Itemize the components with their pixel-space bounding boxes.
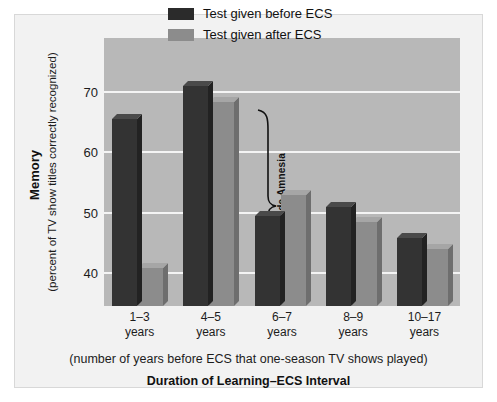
y-tick-label: 70 — [84, 85, 98, 100]
x-tick-label-line: 1–3 — [125, 310, 154, 325]
bar — [326, 207, 351, 306]
y-axis-subtitle-text: (percent of TV show titles correctly rec… — [46, 52, 58, 291]
bar-side — [137, 114, 142, 306]
bar-face — [397, 238, 422, 306]
x-axis-title: Duration of Learning–ECS Interval — [0, 374, 497, 388]
y-axis-tick-labels: 40506070 — [62, 38, 98, 306]
bar — [209, 102, 234, 306]
x-tick-label-line: 8–9 — [339, 310, 368, 325]
bar-side — [234, 97, 239, 306]
bar — [183, 86, 208, 306]
x-tick-label: 6–7years — [267, 310, 296, 340]
bar-face — [183, 86, 208, 306]
bar-side — [448, 244, 453, 306]
x-axis-subtitle: (number of years before ECS that one-sea… — [0, 352, 497, 366]
bar-side — [306, 190, 311, 306]
x-tick-label: 10–17years — [408, 310, 441, 340]
plot-area: Retrograde Amnesia — [104, 38, 460, 306]
y-axis-title-text: Memory — [27, 150, 42, 200]
gridline — [104, 151, 460, 153]
legend-label: Test given before ECS — [203, 6, 332, 21]
bar — [112, 119, 137, 306]
legend-swatch-icon — [168, 29, 194, 41]
bar-face — [326, 207, 351, 306]
legend-label: Test given after ECS — [203, 27, 322, 42]
y-axis-title: Memory — [24, 70, 44, 280]
figure: Memory (percent of TV show titles correc… — [0, 0, 497, 402]
x-tick-label-line: 10–17 — [408, 310, 441, 325]
y-axis-subtitle: (percent of TV show titles correctly rec… — [42, 38, 62, 306]
legend: Test given before ECSTest given after EC… — [168, 6, 332, 42]
bar-side — [208, 81, 213, 306]
x-tick-label-line: years — [339, 325, 368, 340]
bar — [397, 238, 422, 306]
legend-item[interactable]: Test given before ECS — [168, 6, 332, 21]
x-tick-label-line: 6–7 — [267, 310, 296, 325]
x-tick-label: 4–5years — [196, 310, 225, 340]
y-tick-label: 50 — [84, 205, 98, 220]
bar-face — [255, 216, 280, 306]
bar-face — [112, 119, 137, 306]
x-tick-label: 1–3years — [125, 310, 154, 340]
bar-face — [209, 102, 234, 306]
bar-side — [351, 202, 356, 306]
x-axis-tick-labels: 1–3years4–5years6–7years8–9years10–17yea… — [104, 310, 460, 344]
x-tick-label: 8–9years — [339, 310, 368, 340]
bar — [255, 216, 280, 306]
legend-item[interactable]: Test given after ECS — [168, 27, 332, 42]
bar-side — [163, 263, 168, 306]
y-tick-label: 40 — [84, 265, 98, 280]
x-tick-label-line: 4–5 — [196, 310, 225, 325]
bar-side — [422, 233, 427, 306]
bar-side — [377, 217, 382, 306]
y-tick-label: 60 — [84, 145, 98, 160]
gridline — [104, 91, 460, 93]
x-tick-label-line: years — [125, 325, 154, 340]
bar-side — [280, 211, 285, 306]
legend-swatch-icon — [168, 8, 194, 20]
x-tick-label-line: years — [408, 325, 441, 340]
x-tick-label-line: years — [196, 325, 225, 340]
x-tick-label-line: years — [267, 325, 296, 340]
